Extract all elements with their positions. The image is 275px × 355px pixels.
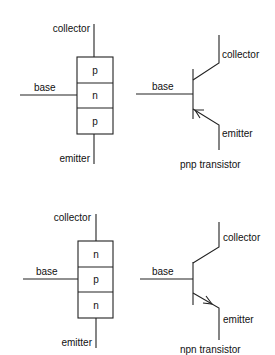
npn-symbol-emitter-lead — [193, 293, 219, 340]
pnp-block: collector p n p base emitter — [20, 23, 113, 164]
npn-symbol: base collector emitter npn transistor — [140, 222, 261, 355]
npn-symbol-caption: npn transistor — [180, 344, 241, 355]
npn-symbol-collector-label: collector — [223, 232, 261, 243]
pnp-layer-3: p — [92, 116, 98, 127]
npn-layer-2: p — [93, 274, 99, 285]
pnp-symbol-emitter-label: emitter — [222, 128, 253, 139]
npn-symbol-base-label: base — [152, 266, 174, 277]
pnp-symbol-collector-label: collector — [222, 49, 260, 60]
pnp-symbol-emitter-lead — [193, 109, 219, 150]
pnp-symbol-base-label: base — [152, 81, 174, 92]
pnp-layer-2: n — [92, 90, 98, 101]
npn-layer-1: n — [93, 249, 99, 260]
npn-symbol-emitter-label: emitter — [223, 314, 254, 325]
npn-block-collector-label: collector — [54, 212, 92, 223]
pnp-block-emitter-label: emitter — [59, 153, 90, 164]
pnp-block-base-label: base — [34, 82, 56, 93]
npn-block: collector n p n base emitter — [23, 212, 113, 348]
arrow-inward-icon — [195, 110, 204, 118]
pnp-block-collector-label: collector — [53, 23, 91, 34]
transistor-diagram: collector p n p base emitter base collec… — [0, 0, 275, 355]
pnp-layer-1: p — [92, 65, 98, 76]
npn-block-base-label: base — [36, 266, 58, 277]
pnp-symbol-collector-lead — [193, 35, 219, 80]
npn-symbol-collector-lead — [193, 222, 219, 263]
npn-layer-3: n — [93, 300, 99, 311]
npn-block-emitter-label: emitter — [61, 337, 92, 348]
pnp-symbol-caption: pnp transistor — [180, 159, 241, 170]
pnp-symbol: base collector emitter pnp transistor — [136, 35, 260, 170]
